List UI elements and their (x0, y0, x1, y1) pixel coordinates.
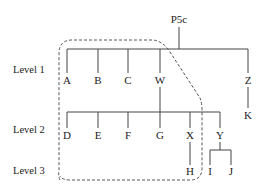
node-J: J (229, 165, 234, 177)
level-label-1: Level 1 (13, 64, 45, 75)
node-E: E (95, 129, 102, 141)
node-G: G (156, 129, 164, 141)
level-label-2: Level 2 (13, 124, 45, 135)
node-I: I (208, 165, 212, 177)
node-Y: Y (216, 129, 224, 141)
node-P5c: P5c (171, 13, 188, 25)
node-X: X (186, 129, 194, 141)
node-D: D (63, 129, 71, 141)
node-C: C (124, 74, 131, 86)
node-K: K (244, 109, 252, 121)
node-F: F (125, 129, 131, 141)
node-Z: Z (245, 74, 252, 86)
node-B: B (94, 74, 101, 86)
node-H: H (186, 165, 194, 177)
dashed-group-outline (59, 40, 202, 180)
node-A: A (63, 74, 71, 86)
tree-diagram: P5c A B C W Z K D E F G X Y H I J Level … (0, 0, 263, 188)
level-label-3: Level 3 (13, 165, 45, 176)
node-W: W (155, 74, 166, 86)
